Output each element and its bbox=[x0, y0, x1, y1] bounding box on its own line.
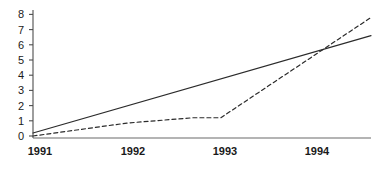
line-chart: 0 1 2 3 4 5 6 7 8 1991 1992 1993 1994 bbox=[0, 0, 377, 169]
x-tick-label-1993: 1993 bbox=[202, 146, 248, 157]
y-tick-label-1: 1 bbox=[10, 116, 24, 127]
chart-plot-area bbox=[0, 0, 377, 169]
y-tick-label-8: 8 bbox=[10, 9, 24, 20]
y-tick-label-2: 2 bbox=[10, 101, 24, 112]
y-tick-label-7: 7 bbox=[10, 25, 24, 36]
series-line-solid bbox=[33, 36, 371, 133]
y-tick-label-3: 3 bbox=[10, 85, 24, 96]
y-axis-ticks bbox=[29, 14, 33, 136]
x-tick-label-1994: 1994 bbox=[294, 146, 340, 157]
y-tick-label-0: 0 bbox=[10, 131, 24, 142]
y-tick-label-5: 5 bbox=[10, 55, 24, 66]
x-tick-label-1992: 1992 bbox=[110, 146, 156, 157]
x-tick-label-1991: 1991 bbox=[17, 146, 63, 157]
y-tick-label-6: 6 bbox=[10, 40, 24, 51]
y-tick-label-4: 4 bbox=[10, 70, 24, 81]
